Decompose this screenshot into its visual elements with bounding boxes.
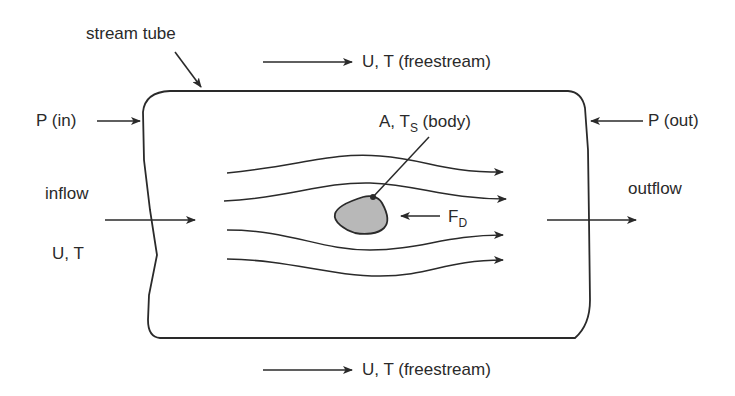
- body-label: A, TS (body): [379, 113, 471, 130]
- drag-force-subscript: D: [458, 216, 467, 230]
- body-leader-line: [373, 137, 429, 197]
- p-out-label: P (out): [648, 112, 699, 129]
- streamline-4: [227, 259, 503, 276]
- body-label-subscript: S: [410, 121, 418, 135]
- freestream-bottom-label: U, T (freestream): [362, 361, 491, 378]
- body-shape: [335, 196, 388, 234]
- p-in-label: P (in): [36, 112, 76, 129]
- stream-tube-diagram: stream tube U, T (freestream) U, T (free…: [0, 0, 735, 396]
- stream-tube-leader-arrow: [175, 52, 201, 87]
- outflow-label: outflow: [628, 180, 682, 197]
- stream-tube-label: stream tube: [86, 25, 176, 42]
- freestream-top-label: U, T (freestream): [362, 53, 491, 70]
- inflow-state-label: U, T: [52, 245, 84, 262]
- body-label-main: A, T: [379, 112, 410, 131]
- inflow-label: inflow: [45, 185, 88, 202]
- body-leader-dot: [370, 194, 376, 200]
- streamline-1: [227, 155, 503, 173]
- body-label-suffix: (body): [418, 112, 471, 131]
- drag-force-label: FD: [448, 208, 467, 225]
- drag-force-main: F: [448, 207, 458, 226]
